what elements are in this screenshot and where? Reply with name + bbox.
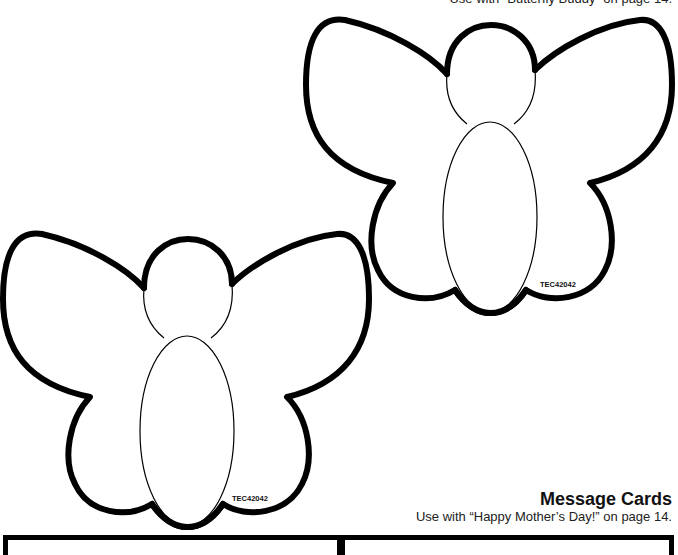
tec-code-label: TEC42042: [232, 494, 268, 503]
message-cards-subtitle: Use with “Happy Mother’s Day!” on page 1…: [416, 509, 672, 524]
message-card-right: [340, 535, 674, 555]
message-cards-title: Message Cards: [540, 489, 672, 510]
tec-code-label: TEC42042: [540, 280, 576, 289]
butterfly-pattern-bottom-left: TEC42042: [3, 234, 369, 527]
message-card-left: [3, 535, 342, 555]
